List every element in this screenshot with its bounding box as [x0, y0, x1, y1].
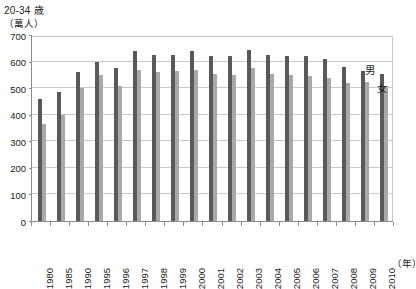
x-axis-tick-label: 1995 — [102, 268, 112, 289]
x-axis-tick-label: 2007 — [330, 268, 340, 289]
y-axis-tick-label: 0 — [21, 217, 26, 227]
bar-female — [270, 74, 274, 221]
bar-female — [80, 88, 84, 221]
y-axis-tick-label: 200 — [10, 164, 26, 174]
bar-group — [70, 72, 89, 221]
y-axis-tick-label: 400 — [10, 111, 26, 121]
x-axis: 1980198519901995199619971998199920002001… — [31, 226, 393, 272]
x-axis-tick-label: 2004 — [273, 268, 283, 289]
bar-female — [251, 68, 255, 221]
y-axis-tick-label: 600 — [10, 58, 26, 68]
bar-group — [318, 59, 337, 221]
bar-group — [203, 56, 222, 221]
x-axis-tick-label: 2005 — [292, 268, 302, 289]
bar-female — [213, 74, 217, 221]
bar-female — [61, 115, 65, 221]
x-axis-tick — [393, 222, 394, 226]
bar-group — [32, 99, 51, 221]
x-axis-tick-label: 2001 — [216, 268, 226, 289]
bar-female — [289, 75, 293, 221]
bar-group — [280, 56, 299, 221]
y-axis: 0100200300400500600700 — [0, 36, 29, 222]
x-axis-tick-label: 2009 — [368, 268, 378, 289]
x-axis-tick-label: 1997 — [140, 268, 150, 289]
bar-female — [308, 76, 312, 221]
x-axis-tick-label: 1980 — [45, 268, 55, 289]
x-axis-tick-label: 2002 — [235, 268, 245, 289]
bar-group — [337, 67, 356, 221]
y-axis-tick-label: 300 — [10, 138, 26, 148]
bar-group — [184, 51, 203, 221]
bar-group — [299, 56, 318, 221]
plot-area — [31, 36, 393, 222]
bar-female — [156, 72, 160, 221]
bar-group — [108, 68, 127, 221]
bar-female — [118, 86, 122, 222]
x-axis-tick-label: 1999 — [178, 268, 188, 289]
bar-group — [89, 62, 108, 221]
bar-female — [232, 75, 236, 221]
x-axis-tick-label: 2006 — [311, 268, 321, 289]
bar-female — [327, 78, 331, 221]
bar-group — [356, 71, 375, 221]
bar-group — [242, 50, 261, 221]
x-axis-tick-label: 2003 — [254, 268, 264, 289]
bar-female — [175, 71, 179, 221]
bar-female — [194, 70, 198, 221]
bar-group — [127, 51, 146, 221]
bar-group — [51, 92, 70, 221]
page-title: 20-34 歳 — [4, 2, 44, 17]
bar-group — [261, 55, 280, 221]
bar-female — [42, 124, 46, 221]
x-axis-tick-label: 1998 — [159, 268, 169, 289]
bar-group — [165, 55, 184, 221]
bar-female — [365, 82, 369, 222]
bar-female — [346, 83, 350, 221]
x-axis-unit-label: （年） — [392, 256, 416, 270]
legend-item-male: 男 — [365, 62, 375, 77]
bar-female — [384, 86, 388, 222]
y-axis-tick-label: 500 — [10, 84, 26, 94]
x-axis-tick-label: 2008 — [349, 268, 359, 289]
bar-group — [375, 74, 394, 221]
x-axis-tick-label: 2000 — [197, 268, 207, 289]
bar-female — [137, 70, 141, 221]
legend-item-female: 女 — [377, 80, 387, 95]
bar-series-layer — [32, 36, 393, 221]
x-axis-tick-label: 1985 — [64, 268, 74, 289]
x-axis-tick-label: 1990 — [83, 268, 93, 289]
y-axis-tick-label: 100 — [10, 191, 26, 201]
y-axis-unit-label: （萬人） — [4, 16, 44, 30]
x-axis-tick-label: 1996 — [121, 268, 131, 289]
bar-female — [99, 75, 103, 221]
y-axis-tick-label: 700 — [10, 31, 26, 41]
x-axis-tick-label: 2010 — [387, 268, 397, 289]
bar-group — [146, 55, 165, 221]
bar-group — [223, 56, 242, 221]
